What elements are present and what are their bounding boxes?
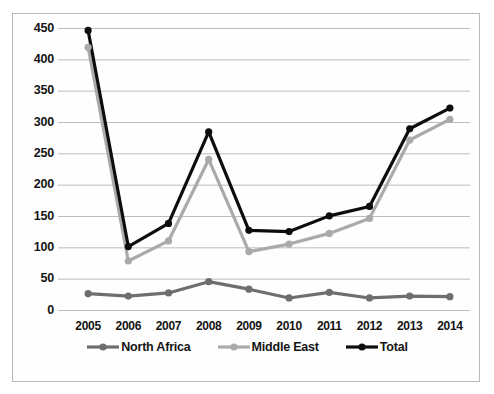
data-point	[85, 44, 92, 51]
gridlines	[58, 29, 470, 311]
y-tick-label: 100	[14, 240, 54, 254]
data-point	[245, 227, 252, 234]
legend-swatch	[345, 341, 379, 353]
data-point	[326, 230, 333, 237]
data-point	[125, 292, 132, 299]
y-tick-label: 300	[14, 115, 54, 129]
data-point	[125, 243, 132, 250]
data-point	[446, 104, 453, 111]
data-point	[205, 128, 212, 135]
y-tick-label: 0	[14, 303, 54, 317]
data-point	[406, 125, 413, 132]
legend-label: Total	[380, 340, 408, 354]
series-line-north-africa	[88, 282, 450, 298]
data-point	[85, 290, 92, 297]
y-tick-label: 200	[14, 177, 54, 191]
data-point	[406, 292, 413, 299]
y-tick-label: 250	[14, 146, 54, 160]
chart-plot-area	[0, 0, 494, 394]
data-point	[286, 240, 293, 247]
data-point	[286, 228, 293, 235]
data-point	[165, 237, 172, 244]
data-point	[85, 27, 92, 34]
y-tick-label: 400	[14, 52, 54, 66]
data-point	[326, 212, 333, 219]
data-point	[366, 294, 373, 301]
legend-item-north-africa: North Africa	[86, 340, 190, 354]
data-point	[446, 293, 453, 300]
legend-swatch	[217, 341, 251, 353]
y-tick-label: 450	[14, 21, 54, 35]
series-layer	[85, 27, 454, 302]
data-point	[245, 286, 252, 293]
data-point	[286, 294, 293, 301]
legend-label: Middle East	[252, 340, 319, 354]
y-tick-label: 150	[14, 209, 54, 223]
chart-legend: North AfricaMiddle EastTotal	[0, 340, 494, 354]
data-point	[125, 257, 132, 264]
x-tick-label: 2014	[426, 319, 474, 333]
chart-figure: ODA Disbursements in Millions (USD) 0501…	[0, 0, 494, 394]
legend-label: North Africa	[121, 340, 190, 354]
data-point	[326, 289, 333, 296]
data-point	[205, 278, 212, 285]
data-point	[245, 248, 252, 255]
data-point	[366, 215, 373, 222]
y-tick-label: 50	[14, 271, 54, 285]
legend-item-total: Total	[345, 340, 408, 354]
y-tick-label: 350	[14, 83, 54, 97]
figure-caption-strip	[10, 385, 484, 394]
data-point	[406, 136, 413, 143]
data-point	[446, 116, 453, 123]
data-point	[205, 156, 212, 163]
legend-swatch	[86, 341, 120, 353]
data-point	[165, 220, 172, 227]
data-point	[366, 203, 373, 210]
legend-item-middle-east: Middle East	[217, 340, 319, 354]
series-line-total	[88, 30, 450, 246]
data-point	[165, 289, 172, 296]
